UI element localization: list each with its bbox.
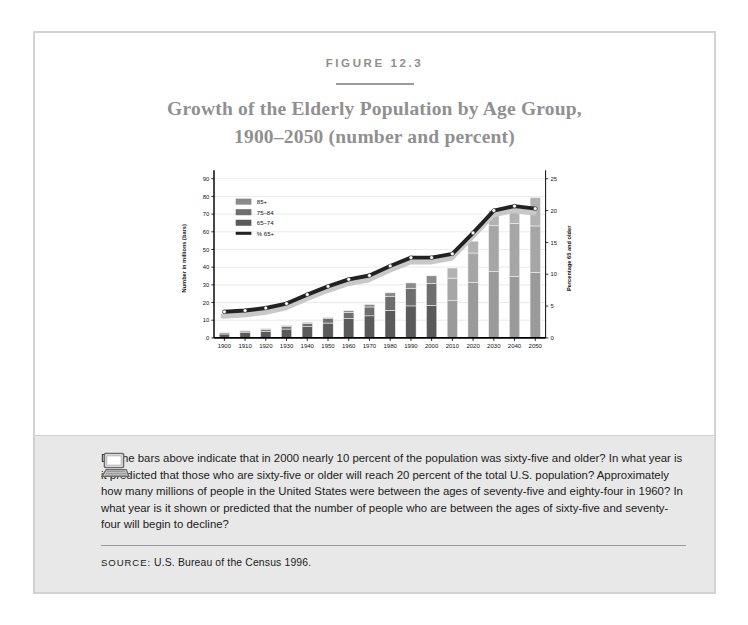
bar-segment[interactable]	[385, 310, 395, 338]
bar-segment[interactable]	[323, 318, 333, 319]
x-tick-label: 1980	[383, 343, 397, 349]
bar-group[interactable]	[261, 329, 271, 338]
computer-icon	[100, 452, 130, 478]
legend-label: 75–84	[257, 210, 274, 216]
bar-group[interactable]	[281, 326, 291, 338]
line-marker[interactable]	[513, 204, 517, 208]
y-axis-title-right: Percentage 65 and older	[566, 225, 572, 291]
bar-group[interactable]	[530, 198, 540, 338]
bar-segment[interactable]	[447, 268, 457, 278]
legend-item[interactable]: 85+	[236, 199, 268, 206]
bar-segment[interactable]	[447, 278, 457, 300]
y-tick-label-right: 0	[550, 335, 553, 341]
bar-group[interactable]	[323, 318, 333, 338]
bar-segment[interactable]	[323, 319, 333, 323]
line-marker[interactable]	[243, 309, 247, 313]
bar-segment[interactable]	[509, 223, 519, 276]
line-marker[interactable]	[223, 310, 227, 314]
bar-segment[interactable]	[302, 323, 312, 326]
bar-segment[interactable]	[364, 305, 374, 307]
line-marker[interactable]	[430, 256, 434, 260]
y-tick-label-right: 15	[550, 240, 556, 246]
bar-segment[interactable]	[385, 293, 395, 297]
line-marker[interactable]	[471, 231, 475, 235]
bar-segment[interactable]	[323, 323, 333, 338]
title-divider	[336, 83, 414, 85]
bar-segment[interactable]	[281, 326, 291, 329]
bar-group[interactable]	[468, 241, 478, 338]
x-tick-label: 1930	[280, 343, 294, 349]
bar-segment[interactable]	[344, 312, 354, 318]
bar-segment[interactable]	[426, 276, 436, 284]
bar-group[interactable]	[302, 322, 312, 338]
legend-item[interactable]: 65–74	[236, 220, 274, 227]
bar-segment[interactable]	[344, 311, 354, 313]
line-marker[interactable]	[347, 277, 351, 281]
bar-group[interactable]	[240, 331, 250, 338]
bar-segment[interactable]	[261, 329, 271, 330]
bar-segment[interactable]	[426, 305, 436, 338]
bar-segment[interactable]	[385, 297, 395, 311]
bar-group[interactable]	[385, 293, 395, 338]
x-tick-label: 1910	[238, 343, 252, 349]
bar-group[interactable]	[447, 268, 457, 338]
x-tick-label: 1940	[301, 343, 315, 349]
line-marker[interactable]	[409, 256, 413, 260]
bar-segment[interactable]	[426, 283, 436, 305]
figure-label: FIGURE 12.3	[35, 57, 714, 69]
x-tick-label: 2040	[508, 343, 522, 349]
bar-group[interactable]	[426, 276, 436, 338]
y-tick-label-right: 25	[550, 176, 556, 182]
y-tick-label-left: 50	[203, 247, 209, 253]
bar-group[interactable]	[406, 283, 416, 338]
line-marker[interactable]	[368, 274, 372, 278]
bar-segment[interactable]	[406, 283, 416, 288]
bar-segment[interactable]	[406, 288, 416, 306]
bar-segment[interactable]	[489, 226, 499, 272]
bar-segment[interactable]	[530, 226, 540, 272]
question-text: Do the bars above indicate that in 2000 …	[101, 450, 686, 533]
line-marker[interactable]	[388, 264, 392, 268]
bar-segment[interactable]	[447, 301, 457, 338]
bar-segment[interactable]	[406, 306, 416, 338]
bar-group[interactable]	[344, 311, 354, 338]
line-marker[interactable]	[492, 209, 496, 213]
y-tick-label-right: 10	[550, 271, 556, 277]
legend-label: 85+	[257, 199, 268, 205]
line-marker[interactable]	[264, 306, 268, 310]
bar-segment[interactable]	[509, 277, 519, 338]
y-tick-label-left: 0	[206, 335, 209, 341]
question-block: Do the bars above indicate that in 2000 …	[101, 450, 686, 533]
bar-segment[interactable]	[364, 307, 374, 316]
bar-segment[interactable]	[281, 329, 291, 338]
x-tick-label: 2030	[487, 343, 501, 349]
bar-segment[interactable]	[281, 326, 291, 327]
legend-swatch	[236, 220, 252, 226]
bar-segment[interactable]	[344, 318, 354, 337]
x-tick-label: 2000	[425, 343, 439, 349]
x-tick-label: 1900	[218, 343, 232, 349]
line-marker[interactable]	[326, 284, 330, 288]
bar-group[interactable]	[489, 211, 499, 338]
line-marker[interactable]	[450, 252, 454, 256]
bar-group[interactable]	[364, 305, 374, 338]
x-tick-label: 1990	[404, 343, 418, 349]
bar-segment[interactable]	[468, 253, 478, 282]
bar-segment[interactable]	[364, 316, 374, 338]
bar-segment[interactable]	[302, 327, 312, 338]
legend-label: 65–74	[257, 220, 274, 226]
y-tick-label-left: 70	[203, 211, 209, 217]
line-marker[interactable]	[305, 293, 309, 297]
bar-segment[interactable]	[261, 329, 271, 331]
line-marker[interactable]	[533, 207, 537, 211]
bar-segment[interactable]	[489, 272, 499, 338]
bar-segment[interactable]	[261, 331, 271, 338]
line-marker[interactable]	[285, 302, 289, 306]
bar-segment[interactable]	[530, 272, 540, 338]
bar-group[interactable]	[509, 205, 519, 338]
legend-swatch-line	[236, 232, 252, 235]
bar-segment[interactable]	[468, 282, 478, 338]
x-tick-label: 1920	[259, 343, 273, 349]
bar-segment[interactable]	[302, 322, 312, 323]
legend-item[interactable]: 75–84	[236, 209, 274, 216]
